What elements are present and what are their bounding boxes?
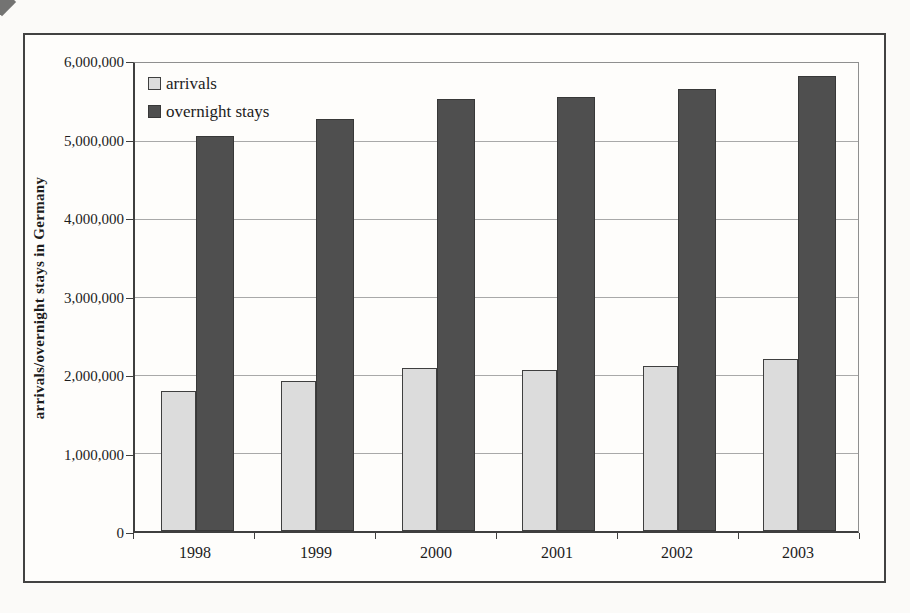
bar-arrivals-2002 xyxy=(643,366,678,531)
gridline xyxy=(135,375,858,376)
bar-overnight-stays-2001 xyxy=(557,97,595,531)
y-tick-label: 6,000,000 xyxy=(14,53,124,71)
legend-label: overnight stays xyxy=(166,102,269,121)
gridline xyxy=(135,297,858,298)
y-tick-mark xyxy=(126,376,133,377)
legend-swatch-overnight-stays xyxy=(148,105,161,118)
x-category-label-1999: 1999 xyxy=(271,543,361,563)
plot-area xyxy=(133,62,859,533)
y-tick-mark xyxy=(126,533,133,534)
bar-arrivals-2003 xyxy=(763,359,798,531)
bar-overnight-stays-2003 xyxy=(798,76,836,531)
y-tick-label: 4,000,000 xyxy=(14,210,124,228)
y-tick-mark xyxy=(126,62,133,63)
y-tick-mark xyxy=(126,219,133,220)
x-tick-mark xyxy=(254,533,255,539)
scanned-bar-chart-figure: arrivals/overnight stays in Germany 01,0… xyxy=(0,0,910,613)
gridline xyxy=(135,141,858,142)
y-tick-label: 5,000,000 xyxy=(14,132,124,150)
x-category-label-2000: 2000 xyxy=(391,543,481,563)
x-category-label-2003: 2003 xyxy=(753,543,843,563)
bar-overnight-stays-1998 xyxy=(196,136,234,531)
legend: arrivalsovernight stays xyxy=(148,74,269,130)
y-tick-label: 1,000,000 xyxy=(14,446,124,464)
x-tick-mark xyxy=(617,533,618,539)
x-category-label-1998: 1998 xyxy=(150,543,240,563)
gridline xyxy=(135,453,858,454)
x-tick-mark xyxy=(496,533,497,539)
y-tick-label: 3,000,000 xyxy=(14,289,124,307)
gridline xyxy=(135,219,858,220)
bar-arrivals-1999 xyxy=(281,381,316,531)
bar-arrivals-1998 xyxy=(161,391,196,531)
x-tick-mark xyxy=(859,533,860,539)
x-tick-mark xyxy=(133,533,134,539)
bar-arrivals-2000 xyxy=(402,368,437,531)
legend-item-overnight-stays: overnight stays xyxy=(148,102,269,121)
y-tick-label: 0 xyxy=(14,524,124,542)
bar-overnight-stays-1999 xyxy=(316,119,354,531)
y-tick-mark xyxy=(126,141,133,142)
legend-item-arrivals: arrivals xyxy=(148,74,269,93)
x-tick-mark xyxy=(375,533,376,539)
bar-arrivals-2001 xyxy=(522,370,557,531)
bar-overnight-stays-2000 xyxy=(437,99,475,531)
x-category-label-2001: 2001 xyxy=(512,543,602,563)
y-tick-mark xyxy=(126,298,133,299)
legend-swatch-arrivals xyxy=(148,77,161,90)
x-tick-mark xyxy=(738,533,739,539)
legend-label: arrivals xyxy=(166,74,217,93)
y-tick-mark xyxy=(126,455,133,456)
scan-corner-artifact xyxy=(0,0,16,16)
bar-overnight-stays-2002 xyxy=(678,89,716,531)
y-tick-label: 2,000,000 xyxy=(14,367,124,385)
x-category-label-2002: 2002 xyxy=(632,543,722,563)
